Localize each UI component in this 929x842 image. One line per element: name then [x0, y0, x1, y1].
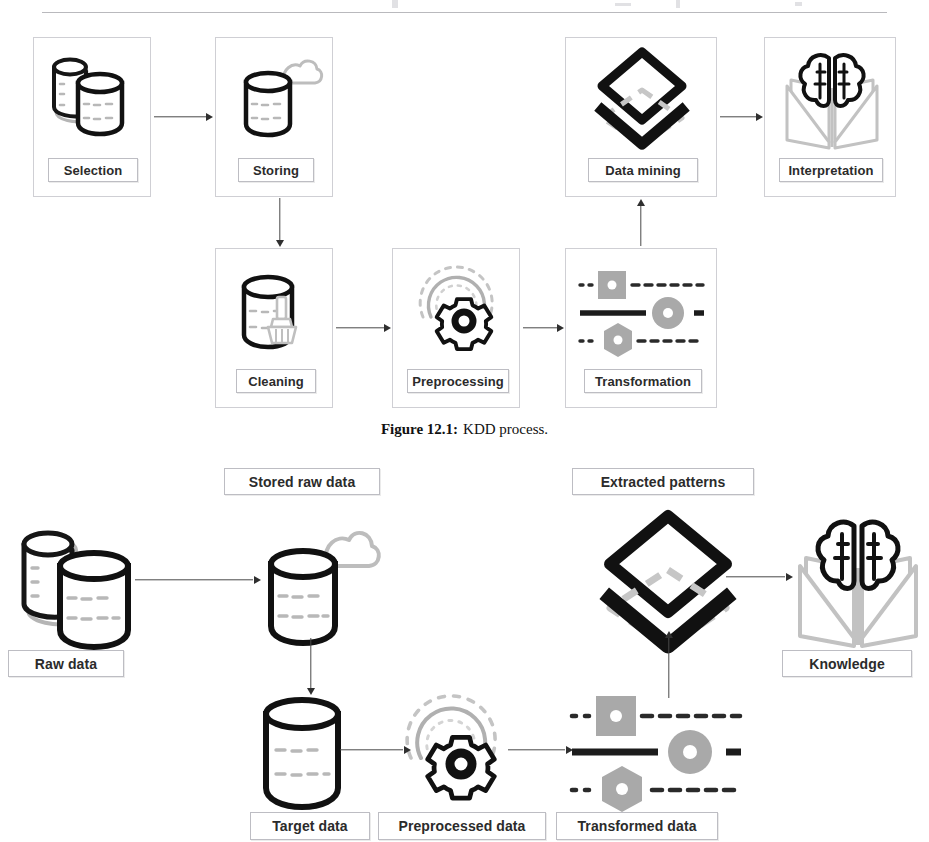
- chip-storing-label: Storing: [253, 163, 299, 178]
- database-cloud-icon: [234, 52, 320, 142]
- chip-interpretation-label: Interpretation: [788, 163, 873, 178]
- chip-target-data[interactable]: Target data: [250, 812, 370, 840]
- database-stack-icon: [42, 50, 142, 142]
- gear-refresh-icon-2: [395, 688, 523, 812]
- arrow-stored-to-target: [306, 638, 316, 694]
- arrow-selection-to-storing: [154, 112, 212, 122]
- chip-target-data-label: Target data: [272, 818, 348, 834]
- panel-transformation[interactable]: Transformation: [565, 248, 717, 408]
- arrow-preprocessing-to-transformation: [523, 323, 563, 333]
- figure-caption: Figure 12.1:KDD process.: [0, 421, 929, 438]
- chip-stored-raw-data[interactable]: Stored raw data: [224, 468, 380, 495]
- header-mark-2: [615, 3, 631, 6]
- panel-preprocessing[interactable]: Preprocessing: [392, 248, 520, 408]
- database-broom-icon: [232, 261, 322, 355]
- header-rule: [42, 12, 887, 13]
- chip-cleaning-label: Cleaning: [248, 374, 304, 389]
- shapes-lines-icon-2: [568, 690, 748, 810]
- header-mark-3: [676, 0, 680, 8]
- panel-cleaning[interactable]: Cleaning: [215, 248, 333, 408]
- panel-selection[interactable]: Selection: [33, 37, 151, 197]
- layers-diamond-icon: [594, 46, 690, 152]
- chip-preprocessing[interactable]: Preprocessing: [407, 369, 509, 393]
- figure-page: Selection: [0, 0, 929, 842]
- chip-interpretation[interactable]: Interpretation: [779, 158, 883, 182]
- brain-book-icon: [779, 46, 885, 154]
- panel-interpretation[interactable]: Interpretation: [764, 37, 896, 197]
- database-cloud-icon-2: [253, 520, 379, 652]
- gear-refresh-icon: [409, 259, 507, 357]
- chip-extracted-patterns-label: Extracted patterns: [601, 474, 726, 490]
- chip-preprocessed-data[interactable]: Preprocessed data: [378, 812, 546, 840]
- chip-transformation-label: Transformation: [595, 374, 691, 389]
- header-mark-4: [795, 2, 802, 6]
- chip-preprocessing-label: Preprocessing: [412, 374, 504, 389]
- chip-preprocessed-data-label: Preprocessed data: [399, 818, 526, 834]
- arrow-cleaning-to-preprocessing: [336, 323, 390, 333]
- arrow-target-to-preprocessed: [340, 745, 410, 755]
- shapes-lines-icon: [576, 265, 708, 359]
- brain-book-icon-2: [790, 512, 926, 654]
- figure-caption-text: KDD process.: [463, 421, 548, 437]
- chip-storing[interactable]: Storing: [238, 158, 314, 182]
- panel-storing[interactable]: Storing: [215, 37, 333, 197]
- chip-knowledge[interactable]: Knowledge: [782, 650, 912, 677]
- header-mark-1: [392, 0, 398, 8]
- chip-raw-data-label: Raw data: [35, 656, 97, 672]
- chip-transformed-data[interactable]: Transformed data: [556, 812, 718, 840]
- chip-datamining[interactable]: Data mining: [588, 158, 698, 182]
- chip-selection[interactable]: Selection: [48, 158, 138, 182]
- figure-caption-label: Figure 12.1:: [381, 421, 458, 437]
- arrow-datamining-to-interpretation: [720, 112, 762, 122]
- chip-stored-raw-data-label: Stored raw data: [249, 474, 356, 490]
- arrow-transformation-to-datamining: [636, 200, 646, 246]
- chip-transformed-data-label: Transformed data: [577, 818, 696, 834]
- chip-cleaning[interactable]: Cleaning: [236, 369, 316, 393]
- chip-selection-label: Selection: [64, 163, 123, 178]
- chip-transformation[interactable]: Transformation: [584, 369, 702, 393]
- arrow-transformed-to-patterns: [664, 632, 674, 698]
- database-stack-icon-2: [8, 518, 158, 658]
- arrow-raw-to-stored: [135, 575, 260, 585]
- panel-datamining[interactable]: Data mining: [565, 37, 717, 197]
- arrow-patterns-to-knowledge: [726, 572, 792, 582]
- chip-extracted-patterns[interactable]: Extracted patterns: [572, 468, 754, 495]
- arrow-preprocessed-to-transformed: [508, 745, 572, 755]
- chip-raw-data[interactable]: Raw data: [8, 650, 124, 677]
- chip-datamining-label: Data mining: [605, 163, 681, 178]
- chip-knowledge-label: Knowledge: [809, 656, 885, 672]
- arrow-storing-to-cleaning: [275, 198, 285, 246]
